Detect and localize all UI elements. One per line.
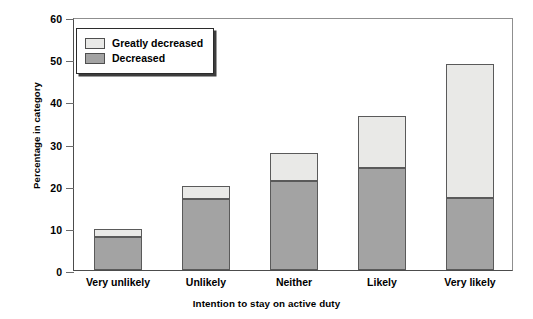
bar-segment-greatly-decreased[interactable]: [182, 186, 230, 199]
bar-very-likely[interactable]: [446, 65, 494, 270]
y-axis-tick: [66, 230, 74, 231]
y-axis-tick-label: 40: [26, 98, 62, 109]
y-axis-tick: [66, 19, 74, 20]
y-axis-tick-label: 0: [26, 267, 62, 278]
y-axis-tick: [66, 61, 74, 62]
bar-segment-greatly-decreased[interactable]: [94, 229, 142, 237]
legend-item[interactable]: Decreased: [85, 51, 203, 66]
x-axis-title: Intention to stay on active duty: [0, 298, 533, 309]
bar-segment-decreased[interactable]: [182, 199, 230, 270]
y-axis-tick-label: 50: [26, 56, 62, 67]
y-axis-tick-label: 60: [26, 14, 62, 25]
y-axis-tick: [66, 103, 74, 104]
bar-segment-greatly-decreased[interactable]: [270, 153, 318, 181]
bar-segment-greatly-decreased[interactable]: [446, 64, 494, 199]
bar-segment-decreased[interactable]: [94, 237, 142, 270]
legend-swatch-icon: [85, 38, 105, 49]
y-axis-tick: [66, 188, 74, 189]
legend-item-label: Greatly decreased: [112, 38, 203, 49]
x-axis-tick-label: Very likely: [410, 277, 530, 288]
legend-item-label: Decreased: [112, 53, 165, 64]
y-axis-tick: [66, 272, 74, 273]
bar-segment-decreased[interactable]: [358, 168, 406, 270]
bar-segment-decreased[interactable]: [270, 181, 318, 270]
legend-item[interactable]: Greatly decreased: [85, 36, 203, 51]
bar-neither[interactable]: [270, 154, 318, 270]
y-axis-tick-label: 20: [26, 182, 62, 193]
bar-very-unlikely[interactable]: [94, 230, 142, 270]
chart-figure: Percentage in category 0102030405060Very…: [0, 0, 533, 319]
y-axis-tick-label: 10: [26, 225, 62, 236]
chart-legend: Greatly decreasedDecreased: [76, 28, 214, 74]
legend-swatch-icon: [85, 53, 105, 64]
bar-unlikely[interactable]: [182, 187, 230, 270]
bar-segment-decreased[interactable]: [446, 198, 494, 270]
bar-likely[interactable]: [358, 117, 406, 270]
y-axis-tick: [66, 146, 74, 147]
bar-segment-greatly-decreased[interactable]: [358, 116, 406, 168]
y-axis-tick-label: 30: [26, 140, 62, 151]
